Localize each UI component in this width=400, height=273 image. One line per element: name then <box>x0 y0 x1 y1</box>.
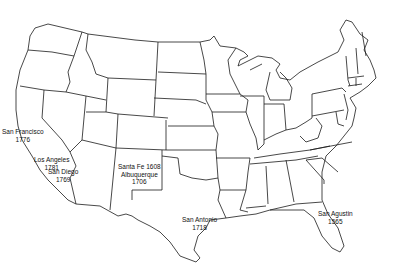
border-az-nm <box>110 148 116 210</box>
border-va-nc <box>310 142 352 150</box>
us-states-map <box>0 0 400 273</box>
label-santa-fe-albuquerque: Santa Fe 1608 Albuquerque 1706 <box>118 163 161 186</box>
border-nh-me <box>362 32 366 56</box>
border-ia-il <box>240 94 248 112</box>
settlement-year: 1769 <box>48 176 78 184</box>
settlement-name: Santa Fe 1608 <box>118 163 161 171</box>
border-ky-tn <box>254 146 330 158</box>
label-san-antonio: San Antonio 1718 <box>182 216 217 231</box>
border-nd-mn <box>200 42 206 74</box>
border-co-nm <box>116 148 166 150</box>
border-wi-mi <box>250 64 262 70</box>
border-il-mo <box>246 112 258 150</box>
settlement-name: Albuquerque <box>118 171 161 179</box>
settlement-year: 1718 <box>182 224 217 232</box>
border-al-ga <box>286 160 294 202</box>
label-san-francisco: San Francisco 1776 <box>2 128 44 143</box>
border-ga-sc <box>306 160 324 184</box>
border-id-mt <box>86 34 108 78</box>
border-ca-nv <box>42 90 70 152</box>
border-ny-vt-ma <box>346 56 350 86</box>
settlement-year: 1565 <box>318 218 353 226</box>
border-oh-ky-wv <box>286 118 312 130</box>
border-ms-al <box>266 166 268 204</box>
border-in-ky <box>264 130 286 140</box>
settlement-name: San Francisco <box>2 128 44 136</box>
border-ny-pa <box>312 88 346 94</box>
border-nd-sd <box>158 72 206 74</box>
border-ut-az <box>82 140 116 148</box>
border-or-id <box>66 56 74 92</box>
border-wy-ut-co <box>86 112 168 118</box>
label-san-agustin: San Agustin 1565 <box>318 210 353 225</box>
border-nm-ok <box>162 156 178 158</box>
border-ma-ct-ri <box>348 76 364 86</box>
border-nj <box>344 94 348 120</box>
border-vt-nh <box>356 48 358 74</box>
border-wa-or <box>28 50 74 56</box>
settlement-name: San Antonio <box>182 216 217 224</box>
border-wv-va <box>300 118 322 142</box>
label-san-diego: San Diego 1769 <box>48 168 78 183</box>
border-mt-nd <box>156 42 158 80</box>
settlement-name: Los Angeles <box>34 156 69 164</box>
border-nv-ut <box>70 96 86 152</box>
border-or-ca-nv <box>20 86 66 92</box>
settlement-name: San Diego <box>48 168 78 176</box>
settlement-year: 1776 <box>2 136 44 144</box>
border-wa-id <box>74 32 82 56</box>
border-md-de <box>336 112 344 126</box>
border-id-wy <box>106 78 108 112</box>
border-mn-wi <box>228 48 240 94</box>
border-ut-co <box>116 114 118 148</box>
settlement-name: San Agustin <box>318 210 353 218</box>
border-ok-tx <box>178 158 218 180</box>
border-mt-wy <box>108 78 156 80</box>
settlement-year: 1706 <box>118 178 161 186</box>
border-sd-ne <box>154 98 206 104</box>
border-ar-la-tx <box>218 178 226 218</box>
border-pa-south <box>312 110 344 116</box>
border-ar-ms <box>240 158 250 210</box>
border-in-oh <box>264 104 286 130</box>
border-al-fl-ga <box>270 202 322 210</box>
border-il-in <box>258 96 264 150</box>
border-ms-south <box>246 206 266 208</box>
border-la-ms <box>240 210 248 212</box>
